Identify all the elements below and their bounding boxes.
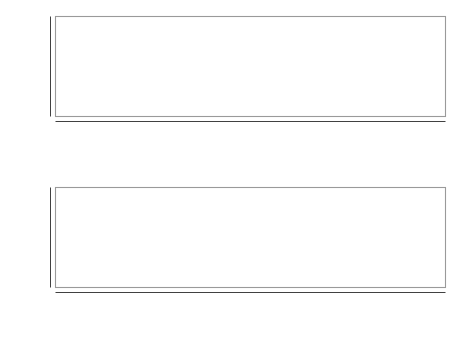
- chart-svg-bottom: [0, 175, 462, 349]
- chart-panel-bottom: [0, 175, 462, 349]
- plot-frame-bottom: [56, 188, 446, 288]
- figure-canvas: [0, 0, 462, 349]
- plot-frame-top: [56, 17, 446, 117]
- chart-panel-top: [0, 0, 462, 174]
- chart-svg-top: [0, 0, 462, 174]
